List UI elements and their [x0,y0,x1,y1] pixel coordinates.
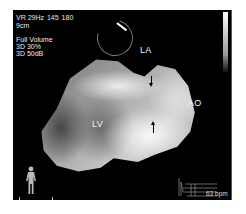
arrow-up-icon [153,124,154,133]
rotation-dial-icon [90,13,139,62]
scale-bar [19,197,53,200]
acquisition-mode-label: Full Volume [16,36,53,43]
angle-end-text: 180 [62,14,74,21]
echo-image-viewport: VR 29Hz 145 180 9cm Full Volume 3D 30% 3… [13,10,232,200]
dynamic-range-label: 3D 50dB [16,50,43,57]
label-left-ventricle: LV [92,119,103,129]
heart-rate-label: 63 bpm [206,190,228,197]
label-aorta: AO [188,98,202,108]
angle-start-text: 145 [47,14,59,21]
grayscale-bar [223,12,228,72]
label-left-atrium: LA [140,45,152,55]
frame-edge [231,10,232,200]
depth-label: 9cm [16,22,29,29]
human-body-icon [23,166,39,196]
arrow-down-icon [151,76,152,84]
frame-rate-label: VR 29Hz 145 180 [16,14,73,21]
mode-text: VR 29Hz [16,14,44,21]
gain-label: 3D 30% [16,43,41,50]
